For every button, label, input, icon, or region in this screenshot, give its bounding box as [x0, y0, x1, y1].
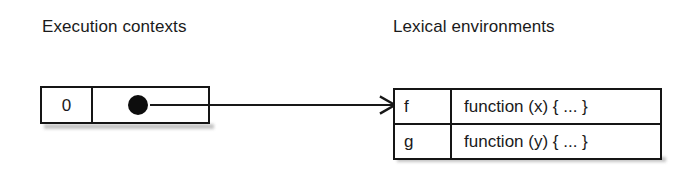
lexical-binding-value: function (x) { ... }: [452, 90, 660, 123]
arrow-right-icon: [150, 93, 398, 117]
lexical-binding-name: f: [395, 90, 452, 123]
lexical-environments-heading: Lexical environments: [393, 17, 555, 36]
execution-context-index-cell: 0: [42, 88, 93, 122]
table-row: f function (x) { ... }: [395, 90, 660, 123]
lexical-binding-name: g: [395, 125, 452, 158]
execution-contexts-heading: Execution contexts: [42, 17, 187, 36]
table-row: g function (y) { ... }: [395, 123, 660, 158]
lexical-environment-table: f function (x) { ... } g function (y) { …: [393, 88, 662, 160]
filled-dot-pointer-icon: [128, 95, 148, 115]
execution-record-shadow: [44, 124, 214, 129]
lexical-binding-value: function (y) { ... }: [452, 125, 660, 158]
execution-context-lexical-environment-diagram: Execution contexts Lexical environments …: [0, 0, 700, 181]
